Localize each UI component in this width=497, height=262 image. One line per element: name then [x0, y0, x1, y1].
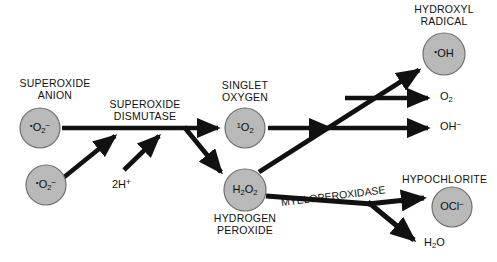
edge-hydrogen-peroxide-to-water	[368, 202, 414, 240]
label-hydroxyl-radical: HYDROXYL RADICAL	[392, 4, 496, 27]
edge-superoxide-lower-to-sod	[63, 136, 115, 178]
formula-superoxide-anion-lower: •O2−	[21, 178, 71, 190]
label-hydroxide-product: OH−	[440, 120, 461, 132]
label-oxygen-product: O2	[440, 90, 453, 102]
edge-hydrogen-peroxide-to-hypochlorite	[368, 198, 424, 204]
formula-singlet-oxygen: 1O2	[220, 121, 270, 133]
edge-protons-to-sod	[124, 136, 159, 170]
label-hydrogen-peroxide: HYDROGEN PEROXIDE	[195, 213, 295, 236]
label-superoxide-dismutase: SUPEROXIDE DISMUTASE	[95, 98, 195, 122]
label-singlet-oxygen: SINGLET OXYGEN	[195, 80, 295, 103]
formula-hydrogen-peroxide: H2O2	[220, 183, 270, 195]
label-hypochlorite: HYPOCHLORITE	[392, 174, 497, 186]
formula-superoxide-anion-upper: •O2−	[15, 121, 65, 133]
label-protons: 2H+	[112, 178, 131, 190]
label-water-product: H2O	[424, 236, 445, 248]
reactive-oxygen-species-diagram: SUPEROXIDE ANION SINGLET OXYGEN HYDROGEN…	[0, 0, 497, 262]
label-superoxide-anion: SUPEROXIDE ANION	[0, 78, 110, 101]
formula-hydroxyl-radical: •OH	[419, 47, 469, 59]
formula-hypochlorite: OCl−	[427, 200, 477, 212]
edge-sod-to-hydrogen-peroxide	[185, 128, 221, 172]
